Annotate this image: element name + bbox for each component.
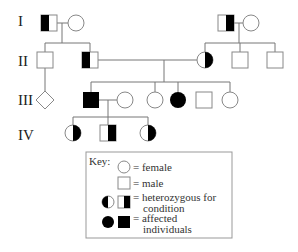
key-male-symbol — [118, 177, 130, 189]
pedigree-chart: I II III IV — [0, 0, 298, 252]
individual-II-2 — [82, 52, 98, 68]
key-heterozygous-male-symbol — [118, 196, 130, 208]
key-female-label: = female — [133, 161, 172, 173]
key-affected-label-2: individuals — [143, 223, 192, 235]
key-female-symbol — [118, 161, 130, 173]
individual-II-3 — [197, 52, 213, 68]
individual-IV-2 — [100, 125, 116, 141]
individual-III-6 — [196, 92, 212, 108]
individual-IV-1 — [65, 125, 81, 141]
generation-label-III: III — [18, 92, 33, 108]
individual-III-5 — [170, 92, 186, 108]
individual-I-1 — [41, 15, 57, 31]
key-affected-female-symbol — [102, 216, 114, 228]
individual-I-4 — [243, 15, 259, 31]
key-title: Key: — [89, 155, 110, 167]
individual-II-1 — [37, 52, 53, 68]
key-heterozygous-female-symbol — [102, 196, 114, 208]
individual-II-4 — [232, 52, 248, 68]
individual-III-4 — [147, 92, 163, 108]
individual-I-3 — [218, 15, 234, 31]
generation-label-I: I — [18, 13, 23, 29]
individual-II-5 — [267, 52, 283, 68]
individual-III-2 — [83, 92, 99, 108]
legend-key: Key: = female = male = heterozygous for … — [86, 152, 232, 238]
pedigree-lines — [45, 23, 275, 125]
individual-III-3 — [117, 92, 133, 108]
individual-I-2 — [68, 15, 84, 31]
key-male-label: = male — [133, 177, 163, 189]
generation-label-II: II — [18, 53, 28, 69]
individual-IV-3 — [140, 125, 156, 141]
generation-label-IV: IV — [18, 127, 34, 143]
individual-III-7 — [222, 92, 238, 108]
individual-III-1 — [36, 91, 54, 109]
key-affected-male-symbol — [118, 216, 130, 228]
